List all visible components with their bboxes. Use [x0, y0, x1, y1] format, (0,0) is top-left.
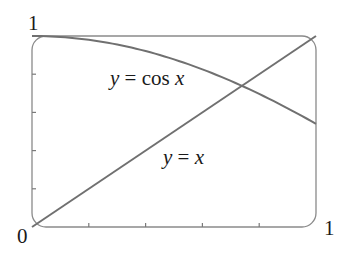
identity-line — [32, 36, 316, 227]
chart-canvas: 1 0 1 y = cos x y = x — [0, 0, 349, 267]
y-max-label: 1 — [28, 11, 39, 35]
identity-line-label: y = x — [161, 145, 205, 169]
x-max-label: 1 — [324, 216, 335, 240]
cos-curve-label: y = cos x — [108, 66, 185, 90]
origin-label: 0 — [17, 224, 28, 248]
